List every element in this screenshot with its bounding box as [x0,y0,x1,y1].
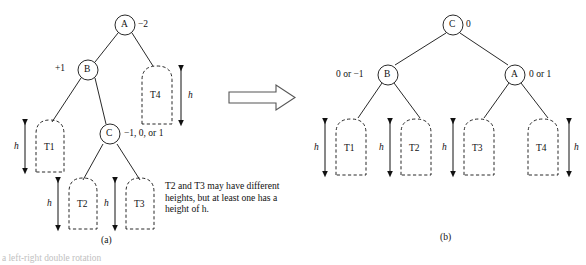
figure-container: A −2 B +1 C −1, 0, or 1 T1 T2 T3 T4 h h … [0,0,586,265]
subtree-label-b-T4: T4 [536,143,547,154]
balance-label-b-B: 0 or −1 [336,69,364,80]
panel-label-b: (b) [440,232,451,243]
balance-label-a-C: −1, 0, or 1 [124,128,163,139]
panel-label-a: (a) [101,235,112,246]
height-label-a-T2: h [47,198,52,209]
subtree-label-a-T2: T2 [77,199,88,210]
node-label-b-A: A [511,69,518,80]
height-label-b-T4: h [574,142,579,153]
subtree-label-b-T3: T3 [472,143,483,154]
height-label-b-T1: h [314,142,319,153]
subtree-label-a-T3: T3 [134,199,145,210]
panel-a-edges [52,33,153,180]
figure-canvas [0,0,586,265]
balance-label-b-C: 0 [466,19,471,30]
height-label-b-T2: h [379,142,384,153]
balance-label-a-B: +1 [55,63,65,74]
height-label-b-T3: h [442,142,447,153]
height-label-a-T1: h [14,141,19,152]
transform-arrow-icon [229,85,295,110]
node-label-a-C: C [106,128,112,139]
subtree-label-a-T1: T1 [44,142,55,153]
balance-label-b-A: 0 or 1 [529,69,551,80]
panel-b-subtrees [336,119,558,175]
node-label-b-C: C [449,19,455,30]
subtree-label-b-T2: T2 [409,143,420,154]
balance-label-a-A: −2 [138,19,148,30]
subtree-label-b-T1: T1 [344,143,355,154]
panel-b-height-arrows [325,121,569,174]
node-label-a-A: A [121,19,128,30]
panel-a-nodes [78,15,135,144]
node-label-a-B: B [84,64,90,75]
panel-a-note: T2 and T3 may have different heights, bu… [165,180,287,215]
height-label-a-T3: h [104,198,109,209]
height-label-a-T4: h [188,90,193,101]
node-label-b-B: B [384,69,390,80]
figure-footer-caption: a left-right double rotation [2,253,101,263]
subtree-label-a-T4: T4 [150,90,161,101]
